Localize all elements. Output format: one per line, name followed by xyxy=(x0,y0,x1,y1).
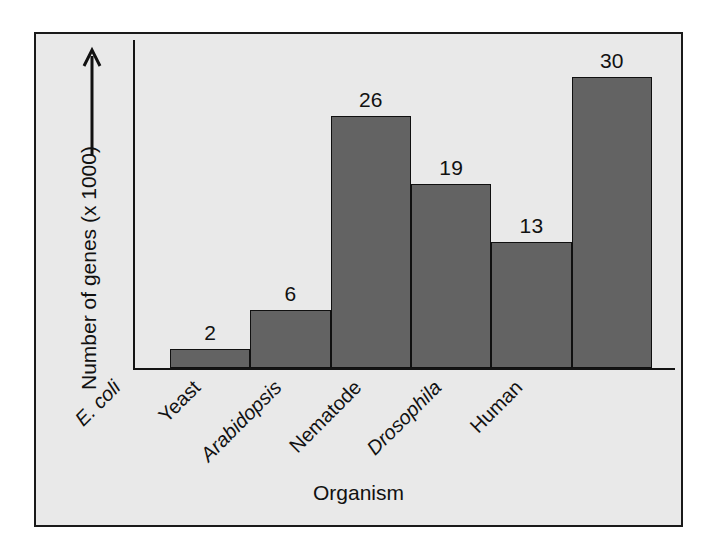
x-tick-label: Human xyxy=(465,376,527,438)
figure-frame: Number of genes (x 1000) 2 6 26 xyxy=(34,32,683,527)
bar-value-label: 30 xyxy=(573,50,651,78)
bar-human[interactable]: 30 xyxy=(572,77,652,368)
bar-value-label: 6 xyxy=(251,283,329,311)
bar-value-label: 26 xyxy=(332,89,410,117)
x-tick-e-coli: E. coli xyxy=(71,370,151,480)
x-tick-label: Yeast xyxy=(155,376,206,427)
bar-slot-yeast: 6 xyxy=(250,38,330,368)
y-axis-title-text: Number of genes (x 1000) xyxy=(77,146,101,390)
y-axis-title: Number of genes (x 1000) xyxy=(54,160,124,372)
x-tick-label: E. coli xyxy=(71,376,126,431)
bar-value-label: 2 xyxy=(171,322,249,350)
bar-value-label: 19 xyxy=(412,157,490,185)
x-axis-tick-labels: E. coli Yeast Arabidopsis Nematode Droso… xyxy=(71,370,553,480)
x-axis-title: Organism xyxy=(36,481,681,505)
bar-slot-e-coli: 2 xyxy=(170,38,250,368)
bar-slot-human: 30 xyxy=(572,38,652,368)
x-tick-drosophila: Drosophila xyxy=(392,370,472,480)
x-tick-human: Human xyxy=(473,370,553,480)
up-arrow-icon xyxy=(82,46,102,158)
bar-value-label: 13 xyxy=(492,215,570,243)
y-axis-block: Number of genes (x 1000) xyxy=(54,42,124,372)
